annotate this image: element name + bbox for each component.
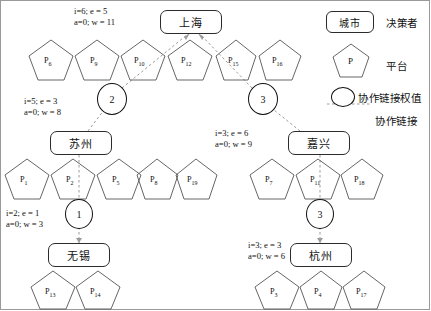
legend-platform-letter: P <box>348 56 353 66</box>
city-label-jiaxing: 嘉兴 <box>307 135 331 151</box>
platform-label-P4: P4 <box>314 287 322 298</box>
annotation-line-1: i=3; e = 6 <box>215 128 252 139</box>
link-weight-suzhou-shanghai[interactable]: 2 <box>97 83 127 115</box>
annotation-line-2: a=0; w = 3 <box>6 219 43 230</box>
link-weight-value: 3 <box>261 94 266 105</box>
platform-label-P11: P11 <box>310 175 320 186</box>
platform-label-P12: P12 <box>181 56 192 67</box>
platform-label-P17: P17 <box>356 287 367 298</box>
link-weight-jiaxing-shanghai[interactable]: 3 <box>248 83 278 115</box>
platform-index: 13 <box>50 292 56 298</box>
link-weight-wuxi-suzhou[interactable]: 1 <box>65 199 93 229</box>
city-label-hangzhou: 杭州 <box>309 247 333 263</box>
link-weight-value: 2 <box>110 94 115 105</box>
platform-label-P16: P16 <box>272 56 283 67</box>
legend-weight-text: 协作链接权值 <box>358 90 421 105</box>
link-suzhou-shanghai-lower <box>88 110 104 131</box>
platform-label-P7: P7 <box>265 175 273 186</box>
platform-index: 10 <box>139 61 145 67</box>
platform-index: 12 <box>186 61 192 67</box>
platform-label-P5: P5 <box>112 175 120 186</box>
annotation-line-1: i=5; e = 3 <box>24 96 61 107</box>
platform-index: 19 <box>192 180 198 186</box>
platform-label-P3: P3 <box>270 287 278 298</box>
diagram-canvas: 上海 苏州 嘉兴 无锡 杭州 2 3 1 3 i=6; e = 5 a=0; w… <box>0 0 431 311</box>
link-weight-value: 3 <box>318 209 323 220</box>
city-node-shanghai[interactable]: 上海 <box>160 10 222 34</box>
platform-label-P14: P14 <box>90 287 101 298</box>
link-weight-value: 1 <box>77 209 82 220</box>
annotation-line-1: i=3; e = 3 <box>248 240 285 251</box>
platform-label-P8: P8 <box>150 175 158 186</box>
platform-label-P6: P6 <box>44 56 52 67</box>
platform-index: 16 <box>277 61 283 67</box>
platform-index: 8 <box>155 180 158 186</box>
platform-index: 4 <box>319 292 322 298</box>
legend-decisionmaker-text: 决策者 <box>386 15 418 30</box>
link-weight-hangzhou-jiaxing[interactable]: 3 <box>306 199 334 229</box>
platform-index: 11 <box>315 180 321 186</box>
platform-index: 3 <box>275 292 278 298</box>
platform-label-P1: P1 <box>20 175 28 186</box>
platform-index: 18 <box>359 180 365 186</box>
platform-label-P15: P15 <box>228 56 239 67</box>
legend-platform-glyph: P <box>348 56 353 66</box>
platform-index: 1 <box>25 180 28 186</box>
annotation-line-2: a=0; w = 11 <box>74 17 115 28</box>
link-arrowheads <box>76 33 323 243</box>
legend-link-label: 协作链接 <box>375 115 417 127</box>
platform-index: 9 <box>95 61 98 67</box>
platform-index: 7 <box>270 180 273 186</box>
platform-index: 15 <box>233 61 239 67</box>
annotation-wuxi: i=2; e = 1 a=0; w = 3 <box>6 208 43 230</box>
platform-label-P18: P18 <box>354 175 365 186</box>
platform-index: 6 <box>49 61 52 67</box>
city-node-wuxi[interactable]: 无锡 <box>48 243 110 267</box>
annotation-line-2: a=0; w = 6 <box>248 251 285 262</box>
platform-index: 5 <box>117 180 120 186</box>
platform-index: 17 <box>361 292 367 298</box>
platform-label-P13: P13 <box>45 287 56 298</box>
annotation-line-1: i=2; e = 1 <box>6 208 43 219</box>
legend-weight-label: 协作链接权值 <box>358 92 421 104</box>
legend-city-box: 城市 <box>326 11 374 33</box>
annotation-suzhou: i=5; e = 3 a=0; w = 8 <box>24 96 61 118</box>
city-node-jiaxing[interactable]: 嘉兴 <box>288 131 350 155</box>
city-label-shanghai: 上海 <box>179 14 203 30</box>
legend-link-text: 协作链接 <box>375 113 417 128</box>
link-jiaxing-shanghai-lower <box>274 110 300 131</box>
platform-label-P2: P2 <box>66 175 74 186</box>
platform-label-P9: P9 <box>90 56 98 67</box>
legend-city-box-label: 城市 <box>339 15 361 30</box>
city-label-wuxi: 无锡 <box>67 247 91 263</box>
city-node-hangzhou[interactable]: 杭州 <box>290 243 352 267</box>
city-node-suzhou[interactable]: 苏州 <box>50 131 112 155</box>
annotation-shanghai: i=6; e = 5 a=0; w = 11 <box>74 6 115 28</box>
platform-label-P19: P19 <box>187 175 198 186</box>
annotation-line-2: a=0; w = 8 <box>24 107 61 118</box>
platform-index: 2 <box>71 180 74 186</box>
platform-label-P10: P10 <box>134 56 145 67</box>
annotation-line-2: a=0; w = 9 <box>215 139 252 150</box>
city-label-suzhou: 苏州 <box>69 135 93 151</box>
legend-decisionmaker-label: 决策者 <box>386 17 418 29</box>
legend-weight-circle <box>331 87 355 107</box>
annotation-hangzhou: i=3; e = 3 a=0; w = 6 <box>248 240 285 262</box>
annotation-jiaxing: i=3; e = 6 a=0; w = 9 <box>215 128 252 150</box>
annotation-line-1: i=6; e = 5 <box>74 6 115 17</box>
legend-platform-label: 平台 <box>386 60 407 72</box>
platform-index: 14 <box>95 292 101 298</box>
legend-platform-text: 平台 <box>386 58 407 73</box>
